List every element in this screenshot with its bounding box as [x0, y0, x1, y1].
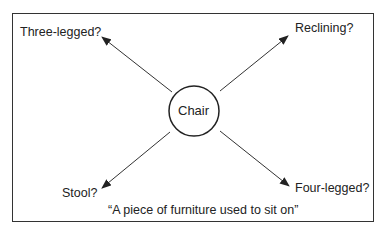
- arrow-top-left: [102, 37, 172, 92]
- branch-label-reclining: Reclining?: [295, 21, 353, 35]
- branch-label-four-legged: Four-legged?: [295, 181, 369, 195]
- center-label: Chair: [178, 103, 209, 118]
- branch-label-stool: Stool?: [62, 186, 97, 200]
- definition-caption: “A piece of furniture used to sit on”: [108, 203, 298, 217]
- arrow-bottom-right: [220, 131, 289, 186]
- arrow-bottom-left: [102, 132, 170, 188]
- arrow-top-right: [220, 36, 288, 91]
- branch-label-three-legged: Three-legged?: [20, 25, 101, 39]
